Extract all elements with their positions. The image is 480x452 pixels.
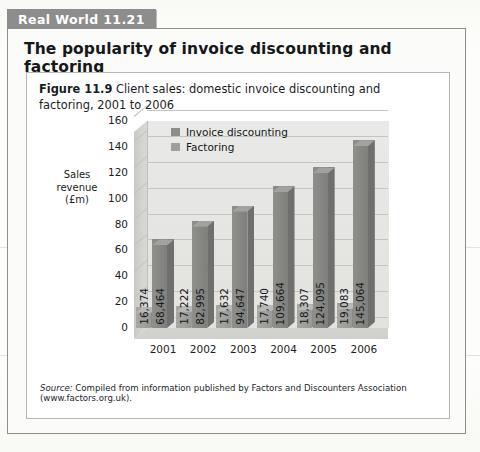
bar-value-label: 19,083 (338, 288, 350, 325)
legend-label: Factoring (186, 141, 234, 153)
bar-value-label: 94,647 (234, 288, 246, 325)
figure-source: Source: Compiled from information publis… (40, 383, 449, 403)
y-axis-tick-label: 0 (96, 321, 128, 333)
legend-item-invoice-discounting: Invoice discounting (171, 125, 288, 138)
y-axis-tick-label: 60 (96, 243, 128, 255)
bar-factoring-2005: 18,307 (297, 304, 312, 328)
section-tab: Real World 11.21 (7, 9, 156, 30)
bar-value-label: 145,064 (354, 282, 366, 325)
bar-value-label: 17,632 (218, 288, 230, 325)
bar-side (328, 167, 335, 328)
bar-invoice-discounting-2006: 145,064 (353, 140, 368, 328)
section-tab-label: Real World 11.21 (18, 12, 145, 27)
bar-factoring-2004: 17,740 (257, 305, 272, 328)
figure-caption: Figure 11.9 Client sales: domestic invoi… (39, 82, 437, 113)
bar-value-label: 82,995 (194, 288, 206, 325)
bar-invoice-discounting-2004: 109,664 (273, 186, 288, 328)
legend-label: Invoice discounting (186, 126, 288, 138)
bar-factoring-2003: 17,632 (216, 305, 231, 328)
bar-value-label: 18,307 (298, 288, 310, 325)
page-title: The popularity of invoice discounting an… (24, 40, 465, 76)
y-axis-tick-label: 40 (96, 269, 128, 281)
bar-value-label: 17,222 (178, 288, 190, 325)
x-axis-tick-label: 2005 (302, 343, 346, 355)
bar-chart: 02040608010012014016016,37468,464200117,… (39, 121, 437, 376)
figure-panel: Figure 11.9 Client sales: domestic invoi… (26, 72, 450, 419)
y-axis-tick-label: 140 (96, 140, 128, 152)
bar-side (288, 186, 295, 328)
bar-side (207, 221, 214, 328)
y-axis-tick-label: 120 (96, 166, 128, 178)
x-axis-tick-label: 2004 (262, 343, 306, 355)
bar-side (368, 140, 375, 328)
legend-swatch-icon (171, 128, 180, 136)
bar-side (247, 206, 254, 328)
bar-factoring-2002: 17,222 (176, 306, 191, 328)
source-label: Source: (40, 383, 73, 393)
legend-swatch-icon (171, 143, 180, 151)
bar-value-label: 17,740 (258, 288, 270, 325)
figure-number: Figure 11.9 (39, 82, 112, 96)
real-world-box: The popularity of invoice discounting an… (7, 28, 466, 434)
x-axis-tick-label: 2001 (141, 343, 185, 355)
bar-invoice-discounting-2005: 124,095 (313, 167, 328, 328)
y-axis-tick-label: 20 (96, 295, 128, 307)
bar-invoice-discounting-2001: 68,464 (152, 239, 167, 328)
legend-item-factoring: Factoring (171, 140, 288, 153)
bar-value-label: 68,464 (154, 288, 166, 325)
y-axis-tick-label: 160 (96, 114, 128, 126)
x-axis-tick-label: 2003 (221, 343, 265, 355)
y-axis-tick-label: 100 (96, 192, 128, 204)
bar-invoice-discounting-2003: 94,647 (232, 206, 247, 328)
bar-factoring-2006: 19,083 (337, 303, 352, 328)
y-axis-tick-label: 80 (96, 218, 128, 230)
bar-value-label: 16,374 (138, 288, 150, 325)
bar-value-label: 109,664 (274, 282, 286, 325)
plot-area: 02040608010012014016016,37468,464200117,… (39, 121, 437, 361)
source-text: Compiled from information published by F… (40, 383, 407, 403)
bar-factoring-2001: 16,374 (136, 307, 151, 328)
chart-legend: Invoice discounting Factoring (171, 125, 288, 155)
bar-side (167, 239, 174, 328)
x-axis-tick-label: 2006 (342, 343, 386, 355)
x-axis-tick-label: 2002 (181, 343, 225, 355)
bar-value-label: 124,095 (314, 282, 326, 325)
gridline (147, 110, 388, 111)
bar-invoice-discounting-2002: 82,995 (192, 221, 207, 328)
